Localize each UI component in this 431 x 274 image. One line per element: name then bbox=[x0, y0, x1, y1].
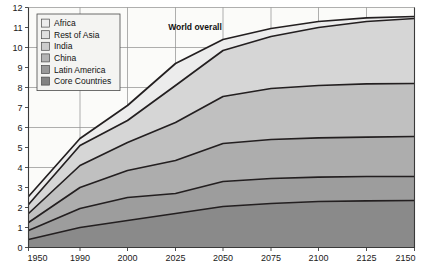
y-tick-label: 1 bbox=[17, 223, 22, 233]
x-tick-label: 2025 bbox=[165, 253, 185, 263]
y-tick-label: 3 bbox=[17, 183, 22, 193]
y-tick-label: 6 bbox=[17, 123, 22, 133]
legend-label-india: India bbox=[54, 41, 73, 51]
legend-swatch-rest-of-asia bbox=[42, 31, 50, 39]
legend-swatch-india bbox=[42, 42, 50, 50]
x-tick-label: 2000 bbox=[117, 253, 137, 263]
x-tick-label: 2125 bbox=[356, 253, 376, 263]
legend-label-core-countries: Core Countries bbox=[54, 76, 111, 86]
x-tick-label: 2075 bbox=[261, 253, 281, 263]
y-tick-label: 8 bbox=[17, 83, 22, 93]
legend-swatch-china bbox=[42, 54, 50, 62]
x-tick-label: 1950 bbox=[28, 253, 48, 263]
legend-label-africa: Africa bbox=[54, 18, 76, 28]
x-tick-label: 2100 bbox=[308, 253, 328, 263]
population-projection-chart: 0123456789101112195019902000202520502075… bbox=[0, 0, 431, 274]
legend-swatch-latin-america bbox=[42, 66, 50, 74]
y-tick-label: 11 bbox=[13, 23, 22, 33]
legend-swatch-core-countries bbox=[42, 77, 50, 85]
legend-swatch-africa bbox=[42, 19, 50, 27]
x-tick-label: 1990 bbox=[70, 253, 90, 263]
legend-label-rest-of-asia: Rest of Asia bbox=[54, 30, 100, 40]
y-tick-label: 5 bbox=[17, 143, 22, 153]
y-tick-label: 0 bbox=[17, 243, 22, 253]
legend-label-china: China bbox=[54, 53, 76, 63]
y-tick-label: 2 bbox=[17, 203, 22, 213]
y-tick-label: 10 bbox=[12, 43, 22, 53]
x-tick-label: 2150 bbox=[395, 253, 415, 263]
chart-canvas: 0123456789101112195019902000202520502075… bbox=[0, 0, 431, 274]
annotation-world-overall: World overall bbox=[168, 22, 222, 32]
y-tick-label: 4 bbox=[17, 163, 22, 173]
legend-label-latin-america: Latin America bbox=[54, 65, 106, 75]
x-tick-label: 2050 bbox=[213, 253, 233, 263]
y-tick-label: 7 bbox=[17, 103, 22, 113]
y-tick-label: 9 bbox=[17, 63, 22, 73]
y-tick-label: 12 bbox=[12, 3, 22, 13]
